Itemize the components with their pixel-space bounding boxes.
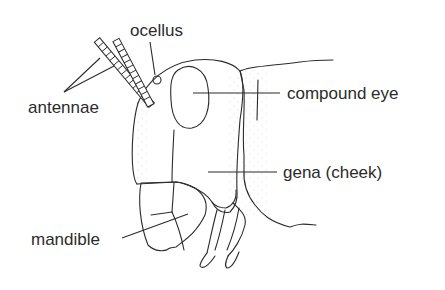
insect-head-diagram: ocellus antennae compound eye gena (chee… — [0, 0, 445, 290]
compound-eye — [171, 67, 209, 129]
label-compound-eye: compound eye — [287, 84, 399, 103]
mandible-drawing — [140, 182, 206, 251]
label-antennae: antennae — [28, 98, 99, 117]
antennae-leader-1 — [64, 58, 100, 92]
label-gena: gena (cheek) — [283, 163, 382, 182]
ocellus-leader — [150, 42, 155, 75]
ocellus-circle — [153, 76, 161, 84]
label-mandible: mandible — [31, 230, 100, 249]
antennae-leader-2 — [64, 66, 114, 92]
antennae-drawing — [94, 38, 154, 108]
label-ocellus: ocellus — [130, 21, 183, 40]
